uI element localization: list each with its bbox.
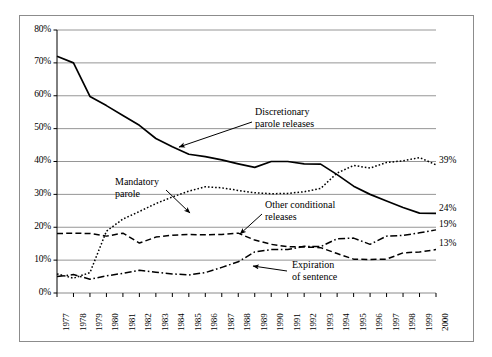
annotation-arrow-mandatory — [166, 190, 190, 213]
x-axis-tick-label: 1983 — [160, 313, 170, 331]
annotation-arrow-discretionary — [179, 122, 252, 147]
x-axis-tick-label: 1999 — [424, 313, 434, 331]
x-axis-tick-label: 1989 — [259, 313, 269, 331]
y-axis-tick-label: 30% — [17, 188, 51, 198]
x-axis-tick-label: 1979 — [94, 313, 104, 331]
annotation-line: parole releases — [255, 118, 314, 130]
series-end-value-label: 39% — [439, 155, 456, 165]
annotation-line: Other conditional — [265, 199, 335, 211]
y-axis-tick-label: 70% — [17, 56, 51, 66]
line-chart-plot — [0, 0, 492, 357]
annotation-label-discretionary: Discretionaryparole releases — [255, 106, 314, 129]
x-axis-tick-label: 1987 — [226, 313, 236, 331]
y-axis-tick-label: 60% — [17, 89, 51, 99]
x-axis-tick-label: 1994 — [341, 313, 351, 331]
x-axis-tick-label: 1981 — [127, 313, 137, 331]
x-axis-tick-label: 1982 — [143, 313, 153, 331]
y-axis-tick-label: 80% — [17, 24, 51, 34]
x-axis-tick-label: 1978 — [78, 313, 88, 331]
x-axis-tick-label: 1997 — [391, 313, 401, 331]
annotation-line: releases — [265, 211, 335, 223]
x-axis-tick-label: 1990 — [275, 313, 285, 331]
figure-chart: 0%10%20%30%40%50%60%70%80%19771978197919… — [0, 0, 492, 357]
x-axis-tick-label: 1991 — [292, 313, 302, 331]
annotation-line: Expiration — [292, 259, 337, 271]
x-axis-tick-label: 1985 — [193, 313, 203, 331]
series-line-other-conditional-releases — [57, 233, 436, 259]
y-axis-tick-label: 0% — [17, 287, 51, 297]
x-axis-tick-label: 1980 — [110, 313, 120, 331]
annotation-line: Discretionary — [255, 106, 314, 118]
x-axis-tick-label: 1988 — [242, 313, 252, 331]
x-axis-tick-label: 1984 — [176, 313, 186, 331]
y-axis-tick-label: 10% — [17, 254, 51, 264]
y-axis-tick-label: 50% — [17, 122, 51, 132]
x-axis-tick-label: 1986 — [209, 313, 219, 331]
x-axis-tick-label: 1993 — [325, 313, 335, 331]
annotation-line: Mandatory — [115, 176, 159, 188]
x-axis-tick-label: 1998 — [407, 313, 417, 331]
x-axis-tick-label: 1995 — [358, 313, 368, 331]
annotation-arrow-other-conditional — [240, 214, 262, 234]
series-end-value-label: 13% — [439, 238, 456, 248]
x-axis-tick-label: 1996 — [374, 313, 384, 331]
x-axis-tick-label: 1992 — [308, 313, 318, 331]
annotation-label-other-conditional: Other conditionalreleases — [265, 199, 335, 222]
x-axis-tick-label: 1977 — [61, 313, 71, 331]
series-end-value-label: 24% — [439, 203, 456, 213]
annotation-line: of sentence — [292, 271, 337, 283]
annotation-label-expiration: Expirationof sentence — [292, 259, 337, 282]
y-axis-tick-label: 40% — [17, 155, 51, 165]
annotation-line: parole — [115, 188, 159, 200]
series-end-value-label: 19% — [439, 219, 456, 229]
y-axis-tick-label: 20% — [17, 221, 51, 231]
annotation-arrow-expiration — [253, 266, 287, 271]
annotation-label-mandatory: Mandatoryparole — [115, 176, 159, 199]
series-line-discretionary-parole-releases — [57, 56, 436, 213]
x-axis-tick-label: 2000 — [440, 313, 450, 331]
